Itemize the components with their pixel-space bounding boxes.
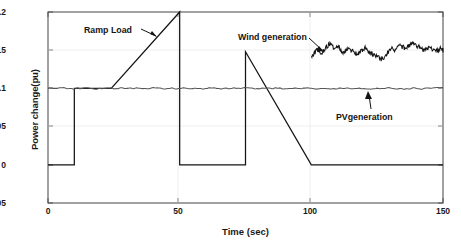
plot-canvas <box>0 0 461 247</box>
annotation-leader-ramp-load <box>141 29 157 37</box>
chart-figure: Power change(pu) Time (sec) 0.2 0.15 0.1… <box>0 0 461 247</box>
series-wind-generation <box>311 42 443 61</box>
annotation-leader-pv-generation <box>365 91 372 109</box>
